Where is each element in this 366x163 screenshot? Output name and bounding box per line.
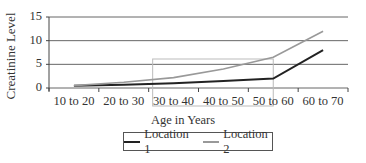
y-tick-label: 10 <box>26 33 42 48</box>
x-tick-label: 60 to 70 <box>303 94 344 109</box>
data-lines <box>74 31 323 85</box>
legend-item-location-2: Location 2 <box>203 127 272 157</box>
legend-swatch <box>203 141 219 143</box>
x-tick-label: 40 to 50 <box>203 94 244 109</box>
y-tick-label: 5 <box>26 56 42 71</box>
legend-swatch <box>124 141 140 143</box>
x-tick-label: 10 to 20 <box>53 94 94 109</box>
axes <box>46 17 348 92</box>
gridlines <box>49 17 348 88</box>
y-axis-label: Creatinine Level <box>0 18 22 94</box>
x-tick-label: 20 to 30 <box>103 94 144 109</box>
x-tick-label: 30 to 40 <box>153 94 194 109</box>
y-tick-label: 0 <box>26 80 42 95</box>
y-tick-label: 15 <box>26 9 42 24</box>
legend-item-location-1: Location 1 <box>124 127 193 157</box>
legend: Location 1 Location 2 <box>123 132 273 151</box>
x-tick-label: 50 to 60 <box>253 94 294 109</box>
